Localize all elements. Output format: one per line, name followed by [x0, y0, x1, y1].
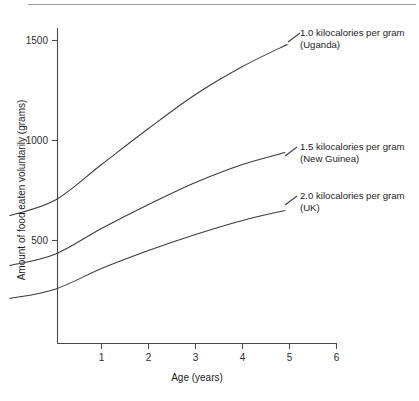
series-label-uganda-line1: 1.0 kilocalories per gram	[300, 27, 405, 38]
x-tick-label-2: 2	[146, 352, 152, 363]
x-axis-title: Age (years)	[171, 372, 223, 383]
leader-line-uk	[285, 196, 297, 205]
series-curve-uganda	[10, 45, 287, 216]
y-tick-label-1500: 1500	[26, 35, 49, 46]
y-axis-title: Amount of food eaten voluntarily (grams)	[16, 100, 27, 281]
leader-line-new-guinea	[285, 147, 297, 156]
figure-container: 1500 1000 500 1 2 3 4 5 6 Age (years) Am…	[0, 0, 419, 401]
series-label-new-guinea-line2: (New Guinea)	[300, 153, 359, 164]
x-tick-label-4: 4	[240, 352, 246, 363]
x-tick-label-5: 5	[287, 352, 293, 363]
series-label-new-guinea-line1: 1.5 kilocalories per gram	[300, 141, 405, 152]
series-curve-new-guinea	[10, 153, 285, 266]
x-tick-label-1: 1	[99, 352, 105, 363]
y-tick-label-500: 500	[31, 235, 48, 246]
series-curve-uk	[10, 211, 285, 299]
series-label-uganda-line2: (Uganda)	[300, 39, 340, 50]
series-label-uk-line1: 2.0 kilocalories per gram	[300, 190, 405, 201]
leader-line-uganda	[288, 33, 300, 42]
y-tick-label-1000: 1000	[26, 135, 49, 146]
line-chart: 1500 1000 500 1 2 3 4 5 6 Age (years) Am…	[0, 0, 419, 401]
x-tick-label-3: 3	[193, 352, 199, 363]
series-label-uk-line2: (UK)	[300, 202, 320, 213]
x-tick-label-6: 6	[334, 352, 340, 363]
